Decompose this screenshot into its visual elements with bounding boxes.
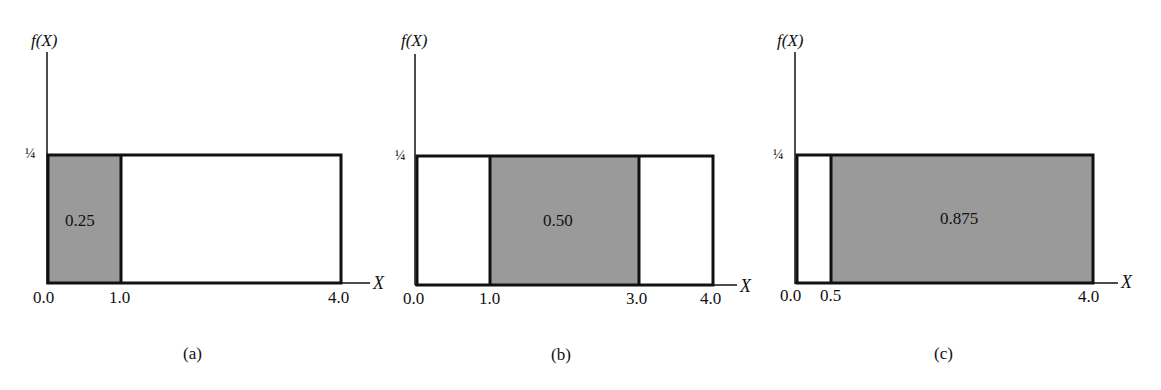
panel-b-area-value: 0.50: [543, 211, 573, 231]
panel-a-tick-1: 1.0: [109, 288, 130, 308]
panel-b-caption: (b): [551, 345, 571, 365]
panel-c-x-label: X: [1121, 272, 1132, 293]
panel-a-plot: [47, 52, 370, 284]
panel-a-x-label: X: [373, 273, 384, 294]
panel-b-tick-3: 4.0: [700, 289, 721, 309]
panel-a-area-value: 0.25: [65, 211, 95, 231]
panel-c-tick-1: 0.5: [820, 286, 841, 306]
panel-b-tick-2: 3.0: [626, 289, 647, 309]
panel-b-y-label: f(X): [401, 31, 427, 51]
panel-c-area-value: 0.875: [940, 209, 978, 229]
uniform-distribution-figure: [0, 0, 1161, 390]
panel-b-tick-0: 0.0: [403, 289, 424, 309]
panel-a-tick-0: 0.0: [33, 288, 54, 308]
panel-a-tick-2: 4.0: [328, 288, 349, 308]
panel-b-tick-1: 1.0: [479, 289, 500, 309]
panel-b-y-tick: ¼: [395, 148, 406, 164]
panel-c-plot: [795, 52, 1118, 284]
panel-a-caption: (a): [183, 344, 202, 364]
panel-c-tick-2: 4.0: [1078, 287, 1099, 307]
panel-b-plot: [415, 54, 737, 285]
panel-c-y-tick: ¼: [773, 147, 784, 163]
panel-c-y-label: f(X): [777, 31, 803, 51]
panel-b-x-label: X: [740, 276, 751, 297]
panel-c-tick-0: 0.0: [780, 286, 801, 306]
panel-a-y-label: f(X): [31, 31, 57, 51]
panel-a-y-tick: ¼: [25, 146, 36, 162]
panel-c-caption: (c): [934, 344, 953, 364]
